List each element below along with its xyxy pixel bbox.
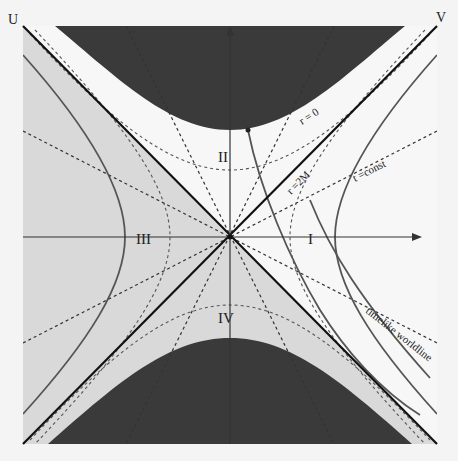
region-iv-label: IV <box>218 310 234 326</box>
u-axis-label: U <box>8 12 18 27</box>
region-ii-label: II <box>218 149 228 165</box>
bifurcation-point <box>228 235 233 240</box>
worldline-endpoint <box>246 128 251 133</box>
region-iii-label: III <box>136 231 151 247</box>
region-i-label: I <box>308 231 313 247</box>
kruskal-diagram: U V II I III IV r = 0 r =2M t =const tim… <box>0 0 458 461</box>
v-axis-label: V <box>436 10 446 25</box>
